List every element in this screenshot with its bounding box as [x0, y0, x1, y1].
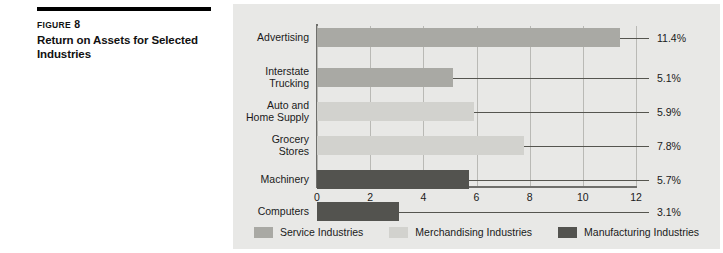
leader-line	[524, 146, 649, 147]
legend-entry: Service Industries	[254, 226, 363, 238]
chart-panel: AdvertisingInterstateTruckingAuto andHom…	[233, 4, 720, 249]
value-label: 3.1%	[657, 206, 681, 218]
category-label-line: Trucking	[159, 78, 309, 90]
figure-label: FIGURE	[37, 20, 71, 30]
category-label-line: Machinery	[159, 174, 309, 186]
legend-swatch	[558, 227, 577, 238]
gridline	[636, 26, 637, 186]
tick-label: 6	[465, 191, 489, 203]
tick-label: 0	[305, 191, 329, 203]
value-label: 11.4%	[657, 32, 686, 44]
bar	[317, 202, 399, 221]
value-label: 7.8%	[657, 140, 681, 152]
category-label-line: Computers	[159, 206, 309, 218]
legend-swatch	[389, 227, 408, 238]
category-label: Computers	[159, 206, 309, 218]
category-label-line: Auto and	[159, 100, 309, 112]
tick-label: 2	[358, 191, 382, 203]
bar	[317, 28, 620, 47]
leader-line	[453, 78, 649, 79]
gridline	[530, 26, 531, 186]
gridline	[477, 26, 478, 186]
leader-line	[620, 38, 649, 39]
legend-entry: Manufacturing Industries	[558, 226, 699, 238]
value-label: 5.7%	[657, 174, 681, 186]
tick-label: 4	[411, 191, 435, 203]
value-label: 5.9%	[657, 106, 681, 118]
bar	[317, 170, 469, 189]
tick-label: 12	[624, 191, 648, 203]
caption-rule	[37, 7, 211, 11]
bar	[317, 102, 474, 121]
category-label-line: Interstate	[159, 66, 309, 78]
category-label: Advertising	[159, 32, 309, 44]
leader-line	[469, 180, 649, 181]
leader-line	[399, 212, 649, 213]
category-label-line: Stores	[159, 146, 309, 158]
leader-line	[474, 112, 649, 113]
bar	[317, 68, 453, 87]
tick-label: 10	[571, 191, 595, 203]
legend-swatch	[254, 227, 273, 238]
value-label: 5.1%	[657, 72, 681, 84]
category-label-line: Home Supply	[159, 112, 309, 124]
category-label-line: Advertising	[159, 32, 309, 44]
legend-label: Manufacturing Industries	[584, 226, 699, 238]
category-label: InterstateTrucking	[159, 66, 309, 89]
legend-label: Service Industries	[280, 226, 363, 238]
category-label: GroceryStores	[159, 134, 309, 157]
figure-number: FIGURE 8	[37, 18, 217, 32]
plot-area	[317, 26, 636, 186]
bar	[317, 136, 524, 155]
legend-entry: Merchandising Industries	[389, 226, 532, 238]
tick-label: 8	[518, 191, 542, 203]
figure-number-value: 8	[74, 18, 80, 30]
chart-legend: Service IndustriesMerchandising Industri…	[233, 222, 720, 242]
legend-label: Merchandising Industries	[415, 226, 532, 238]
gridline	[583, 26, 584, 186]
category-label: Auto andHome Supply	[159, 100, 309, 123]
category-label: Machinery	[159, 174, 309, 186]
category-label-line: Grocery	[159, 134, 309, 146]
